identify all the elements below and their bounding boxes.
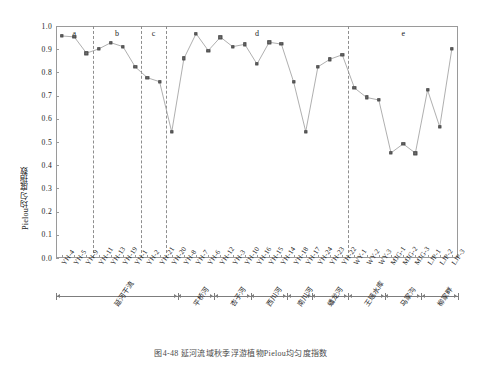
data-point-marker <box>304 130 307 133</box>
river-axis-arrow-right <box>344 294 347 298</box>
data-point-marker <box>109 41 112 44</box>
data-point-marker <box>328 57 331 60</box>
river-axis-arrow-left <box>288 294 291 298</box>
data-point-marker <box>243 43 246 46</box>
data-point-marker <box>73 35 76 38</box>
river-axis-arrow-right <box>174 294 177 298</box>
river-axis-arrow-right <box>381 294 384 298</box>
chart-page: Pielou均匀度指数 0.00.10.20.30.40.50.60.70.80… <box>0 0 482 365</box>
series-line <box>0 0 482 365</box>
river-axis-arrow-right <box>283 294 286 298</box>
data-point-marker <box>121 45 124 48</box>
river-axis-arrow-right <box>454 294 457 298</box>
data-point-marker <box>97 47 100 50</box>
data-point-marker <box>182 57 185 60</box>
figure-caption: 图4-48 延河流域秋季浮游植物Pielou均匀度指数 <box>0 347 482 358</box>
river-axis-arrow-left <box>312 294 315 298</box>
data-point-marker <box>60 34 63 37</box>
data-point-marker <box>170 130 173 133</box>
data-point-marker <box>231 45 234 48</box>
data-point-marker <box>414 151 417 154</box>
river-axis-arrow-right <box>417 294 420 298</box>
data-point-marker <box>85 51 88 54</box>
data-point-marker <box>255 62 258 65</box>
river-axis-arrow-right <box>210 294 213 298</box>
data-point-marker <box>438 125 441 128</box>
data-point-marker <box>389 151 392 154</box>
data-point-marker <box>267 41 270 44</box>
data-point-marker <box>365 96 368 99</box>
data-point-marker <box>292 80 295 83</box>
series-polyline <box>62 34 452 153</box>
data-point-marker <box>401 142 404 145</box>
river-axis-arrow-left <box>251 294 254 298</box>
data-point-marker <box>341 53 344 56</box>
data-point-marker <box>158 80 161 83</box>
river-axis-arrow-right <box>247 294 250 298</box>
data-point-marker <box>194 32 197 35</box>
river-axis-arrow-left <box>349 294 352 298</box>
river-axis-arrow-left <box>57 294 60 298</box>
river-axis-tick <box>458 293 459 300</box>
data-point-marker <box>353 86 356 89</box>
data-point-marker <box>280 42 283 45</box>
river-axis-arrow-left <box>215 294 218 298</box>
data-point-marker <box>377 98 380 101</box>
data-point-marker <box>146 76 149 79</box>
data-point-marker <box>219 35 222 38</box>
data-point-marker <box>316 65 319 68</box>
data-point-marker <box>207 49 210 52</box>
data-point-marker <box>426 88 429 91</box>
data-point-marker <box>450 47 453 50</box>
river-axis-arrow-left <box>385 294 388 298</box>
river-axis-arrow-left <box>178 294 181 298</box>
river-axis-arrow-left <box>422 294 425 298</box>
data-point-marker <box>133 65 136 68</box>
